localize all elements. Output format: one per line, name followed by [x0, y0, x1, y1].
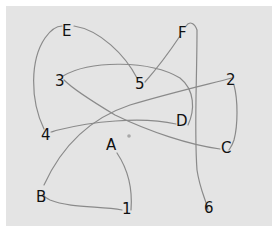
edge-E-5 — [74, 26, 137, 78]
node-label-A: A — [106, 136, 117, 154]
edge-D-4 — [51, 120, 176, 132]
trail-diagram: E F 3 5 2 4 D A C B 1 6 — [0, 0, 278, 240]
edge-1-B — [44, 195, 122, 210]
node-label-5: 5 — [135, 75, 145, 93]
node-label-C: C — [221, 139, 231, 157]
node-label-B: B — [36, 188, 46, 206]
node-label-E: E — [62, 22, 71, 40]
node-label-F: F — [178, 24, 187, 42]
node-label-2: 2 — [226, 71, 236, 89]
node-label-6: 6 — [204, 199, 214, 217]
node-label-3: 3 — [55, 72, 65, 90]
edge-F-6 — [186, 23, 208, 210]
edge-B-2 — [44, 78, 232, 185]
node-label-1: 1 — [122, 200, 132, 218]
stray-dot — [127, 134, 131, 138]
node-label-4: 4 — [41, 126, 51, 144]
node-label-D: D — [176, 112, 188, 130]
